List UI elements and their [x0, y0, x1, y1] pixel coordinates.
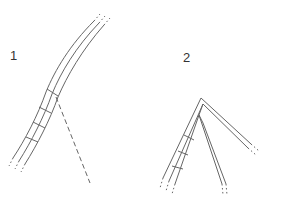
figure-2-right-arm — [201, 98, 251, 148]
figure-2-inner-arm — [199, 104, 226, 184]
figure-2-dotted-ends — [160, 144, 259, 195]
figure-2-label: 2 — [183, 50, 190, 65]
figure-1-strand — [13, 21, 104, 164]
figure-2-left-arm — [163, 98, 203, 184]
figure-1-label: 1 — [10, 48, 17, 63]
figure-1-dashed-line — [56, 97, 90, 183]
diagram-svg — [0, 0, 283, 216]
diagram-canvas — [0, 0, 283, 216]
